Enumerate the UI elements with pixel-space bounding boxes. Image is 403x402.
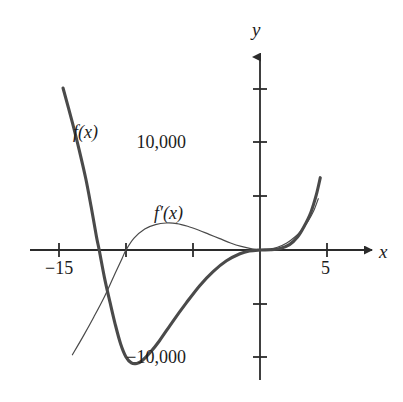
axes-group	[30, 57, 372, 380]
graph-figure: y x 10,000 −10,000 −15 5 f(x) f′(x)	[0, 0, 403, 402]
x-tick-label-minus-15: −15	[45, 259, 73, 277]
plot-canvas	[0, 0, 403, 402]
curve-f	[63, 88, 320, 364]
curve-f-prime	[72, 199, 318, 355]
x-tick-label-5: 5	[321, 259, 330, 277]
y-tick-label-positive: 10,000	[137, 133, 187, 151]
curve-label-f-prime: f′(x)	[154, 204, 183, 222]
curve-label-f: f(x)	[73, 123, 98, 141]
y-tick-label-negative: −10,000	[126, 348, 186, 366]
y-axis-label: y	[252, 20, 260, 39]
x-axis-label: x	[379, 242, 387, 261]
